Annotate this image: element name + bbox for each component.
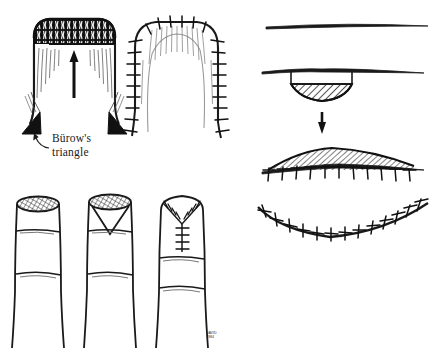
dip-joint-crease-2: [88, 230, 132, 232]
panel-curved-sutured-closure: [258, 199, 428, 241]
pip-joint-crease-2: [88, 272, 133, 275]
panel-advancement-flap: [22, 19, 127, 148]
amputation-surface-1: [17, 197, 59, 212]
flap-sutured-shading: [142, 26, 213, 104]
flap-superior-margin: [34, 19, 115, 44]
pip-joint-crease-3: [159, 286, 205, 289]
sutures-flap-right: [211, 40, 229, 132]
flap-shading-right: [90, 48, 112, 98]
surgical-technique-figure: Bürow's triangle DAVID 1984: [0, 0, 443, 362]
sutures-flap-left: [124, 40, 142, 132]
closed-wound-hatched-mound: [262, 148, 424, 181]
amputation-surface-2: [89, 195, 131, 210]
skin-profile-with-lesion: [262, 69, 424, 101]
pip-joint-crease-1: [16, 272, 61, 275]
burow-triangle-right: [108, 92, 127, 134]
dip-joint-crease-1: [16, 230, 60, 232]
dip-joint-crease-3: [159, 257, 204, 259]
finger-stage-open-stump: [12, 197, 64, 349]
panel-lesion-excision-cross-section: [262, 24, 428, 181]
figure-illustration: [0, 0, 443, 362]
finger-stage-y-closure: [156, 196, 208, 348]
artist-signature-mark: DAVID 1984: [206, 331, 217, 340]
finger-stage-v-excision: [84, 195, 136, 349]
burow-triangle-label: Bürow's triangle: [52, 131, 91, 159]
skin-profile-normal: [266, 24, 428, 29]
panel-advancement-flap-sutured: [124, 16, 229, 138]
burow-label-leader-arrow: [33, 133, 49, 148]
transition-arrow-down: [318, 112, 326, 134]
advancement-arrow-up: [70, 50, 79, 98]
